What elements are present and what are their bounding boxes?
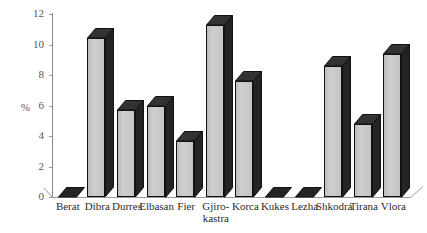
bar-front-face <box>147 106 165 198</box>
bar-zero-top-face <box>265 187 293 199</box>
bar-side-face <box>104 28 115 199</box>
bar-side-face <box>134 100 145 199</box>
bar-side-face <box>341 56 352 199</box>
bar-front-face <box>176 141 194 197</box>
bar-front-face <box>87 38 105 197</box>
bar-side-face <box>164 96 175 200</box>
bar-side-face <box>252 71 263 199</box>
bar-front-face <box>354 124 372 197</box>
bar-zero-top-face <box>295 187 323 199</box>
bar-front-face <box>383 54 401 197</box>
bars-layer <box>0 0 427 233</box>
bar-side-face <box>193 131 204 199</box>
bar-front-face <box>324 66 342 197</box>
x-tick-label: Vlora <box>371 200 417 212</box>
bar-side-face <box>400 44 411 199</box>
x-tick-label-line1: Vlora <box>381 200 406 212</box>
bar-chart: % 024681012 BeratDibraDurresElbasanFierG… <box>0 0 427 233</box>
bar-front-face <box>235 81 253 197</box>
bar-front-face <box>117 110 135 197</box>
bar-zero-top-face <box>58 187 86 199</box>
bar-side-face <box>223 15 234 199</box>
x-tick-label-line2: kastra <box>193 212 239 224</box>
bar-side-face <box>371 114 382 199</box>
bar-front-face <box>206 25 224 197</box>
